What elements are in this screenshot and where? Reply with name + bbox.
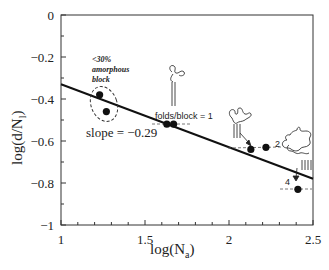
y-tick-label: −0.8 <box>30 176 54 191</box>
y-tick-label: −0.2 <box>30 50 54 65</box>
annotation-folds-2: 2 <box>275 139 280 149</box>
arrow-to-point-4 <box>293 168 299 181</box>
amorphous-group-ellipse <box>86 83 123 126</box>
x-tick-label: 2.5 <box>305 232 321 247</box>
x-tick-label: 1 <box>58 232 65 247</box>
guide-dash-2 <box>228 147 282 148</box>
annotation-amorphous-line1: <30% <box>92 55 112 64</box>
x-axis-label: log(Na) <box>150 241 194 260</box>
y-tick-label: 0 <box>48 8 55 23</box>
y-tick-label: −1 <box>40 218 54 233</box>
data-point <box>103 108 110 115</box>
annotation-slope: slope = −0.29 <box>86 125 157 140</box>
arrow-to-point-2 <box>240 133 251 146</box>
data-point <box>262 144 269 151</box>
y-axis-label: log(d/Nl) <box>9 111 28 165</box>
annotation-folds-4: 4 <box>285 177 290 187</box>
y-tick-label: −0.4 <box>30 92 54 107</box>
annotation-amorphous-line3: block <box>92 75 110 84</box>
annotation-amorphous-line2: amorphous <box>92 65 129 74</box>
chain-fold-icon-3 <box>282 127 311 170</box>
data-point <box>163 121 170 128</box>
scatter-chart: 11.522.5 0−0.2−0.4−0.6−0.8−1 log(Na) log… <box>0 0 329 270</box>
data-point <box>294 186 301 193</box>
data-points <box>96 91 301 193</box>
data-point <box>247 146 254 153</box>
chain-fold-icon-1 <box>170 66 185 106</box>
data-point <box>170 121 177 128</box>
chain-fold-icon-2 <box>229 108 251 138</box>
x-tick-label: 2 <box>226 232 233 247</box>
data-point <box>96 91 103 98</box>
y-tick-label: −0.6 <box>30 134 54 149</box>
annotation-folds-per-block: folds/block = 1 <box>155 111 213 121</box>
